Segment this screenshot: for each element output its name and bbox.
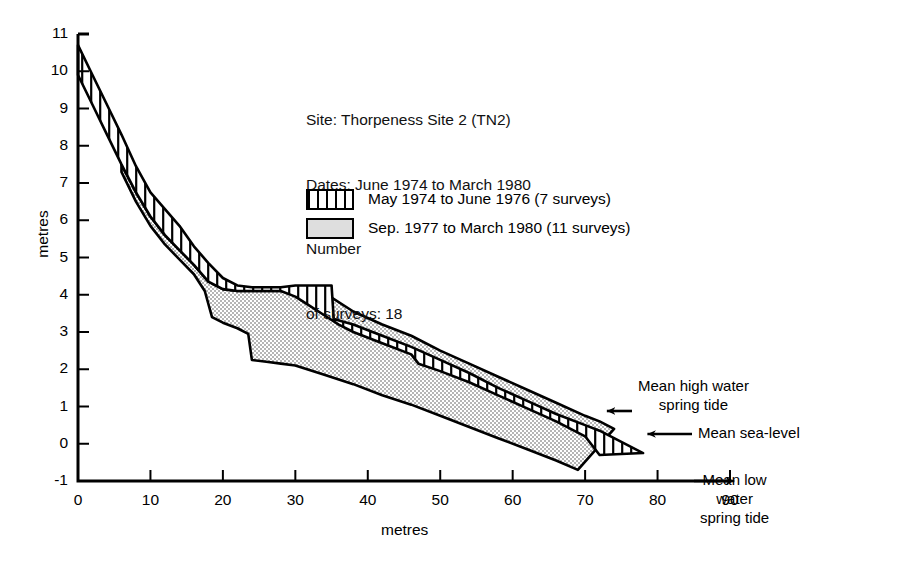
site-line: Site: Thorpeness Site 2 (TN2) bbox=[306, 109, 531, 131]
y-tick-label: 5 bbox=[20, 248, 68, 266]
chart-canvas: Site: Thorpeness Site 2 (TN2) Dates: Jun… bbox=[0, 0, 900, 564]
x-tick-label: 50 bbox=[416, 491, 464, 509]
mhw-line-1: Mean high water bbox=[638, 376, 749, 395]
legend-item-hatch: May 1974 to June 1976 (7 surveys) bbox=[306, 186, 631, 212]
y-tick-label: 8 bbox=[20, 136, 68, 154]
mhw-line-2: spring tide bbox=[638, 395, 749, 414]
legend-swatch-grey-stipple bbox=[306, 218, 354, 239]
annotation-mean-sea-level: Mean sea-level bbox=[698, 423, 800, 442]
x-tick-label: 20 bbox=[199, 491, 247, 509]
y-tick-label: 4 bbox=[20, 285, 68, 303]
y-tick-label: -1 bbox=[20, 471, 68, 489]
x-tick-label: 70 bbox=[561, 491, 609, 509]
legend-label-stipple: Sep. 1977 to March 1980 (11 surveys) bbox=[368, 220, 631, 236]
y-tick-label: 6 bbox=[20, 210, 68, 228]
y-tick-label: 7 bbox=[20, 173, 68, 191]
y-tick-label: 1 bbox=[20, 397, 68, 415]
x-axis-title: metres bbox=[381, 521, 428, 539]
msl-line-1: Mean sea-level bbox=[698, 423, 800, 442]
y-tick-label: 3 bbox=[20, 322, 68, 340]
mlw-line-1: Mean low bbox=[700, 470, 769, 489]
x-tick-label: 10 bbox=[126, 491, 174, 509]
x-tick-label: 60 bbox=[489, 491, 537, 509]
y-axis-title: metres bbox=[34, 189, 52, 279]
x-tick-label: 80 bbox=[634, 491, 682, 509]
surveys-line: of surveys: 18 bbox=[306, 303, 531, 325]
y-tick-label: 2 bbox=[20, 359, 68, 377]
x-tick-label: 90 bbox=[706, 491, 754, 509]
legend-label-hatch: May 1974 to June 1976 (7 surveys) bbox=[368, 191, 611, 207]
legend: May 1974 to June 1976 (7 surveys) Sep. 1… bbox=[306, 186, 631, 244]
legend-swatch-vertical-hatch bbox=[306, 189, 354, 210]
y-tick-label: 9 bbox=[20, 99, 68, 117]
x-tick-label: 30 bbox=[271, 491, 319, 509]
y-tick-label: 10 bbox=[20, 61, 68, 79]
y-tick-label: 11 bbox=[20, 24, 68, 42]
mlw-line-3: spring tide bbox=[700, 508, 769, 527]
y-tick-label: 0 bbox=[20, 434, 68, 452]
legend-item-stipple: Sep. 1977 to March 1980 (11 surveys) bbox=[306, 215, 631, 241]
annotation-mean-high-water: Mean high water spring tide bbox=[638, 376, 749, 414]
x-tick-label: 0 bbox=[54, 491, 102, 509]
x-tick-label: 40 bbox=[344, 491, 392, 509]
